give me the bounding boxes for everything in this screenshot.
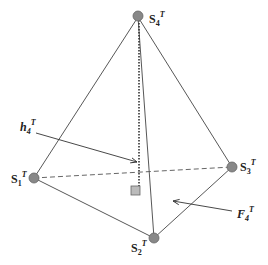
tetrahedron-diagram: S4T S1T S2T S3T h4T F4T (0, 0, 268, 265)
edge-s4-s2 (138, 17, 154, 238)
height-foot-marker (131, 186, 140, 195)
vertex-s1 (29, 173, 39, 183)
edge-s1-s3-hidden (34, 167, 232, 178)
edge-s4-s1 (34, 17, 138, 178)
label-s2: S2T (131, 239, 148, 257)
label-face: F4T (236, 205, 255, 223)
label-s1: S1T (11, 170, 28, 188)
label-height: h4T (20, 118, 37, 136)
vertex-s2 (149, 233, 159, 243)
vertex-s3 (227, 162, 237, 172)
height-pointer-arrow (36, 133, 137, 162)
face-pointer-arrow (173, 201, 232, 211)
edge-s4-s3 (138, 17, 232, 167)
edge-s2-s3 (154, 167, 232, 238)
label-s4: S4T (149, 10, 166, 28)
label-s3: S3T (240, 158, 257, 176)
vertex-s4 (133, 11, 143, 21)
